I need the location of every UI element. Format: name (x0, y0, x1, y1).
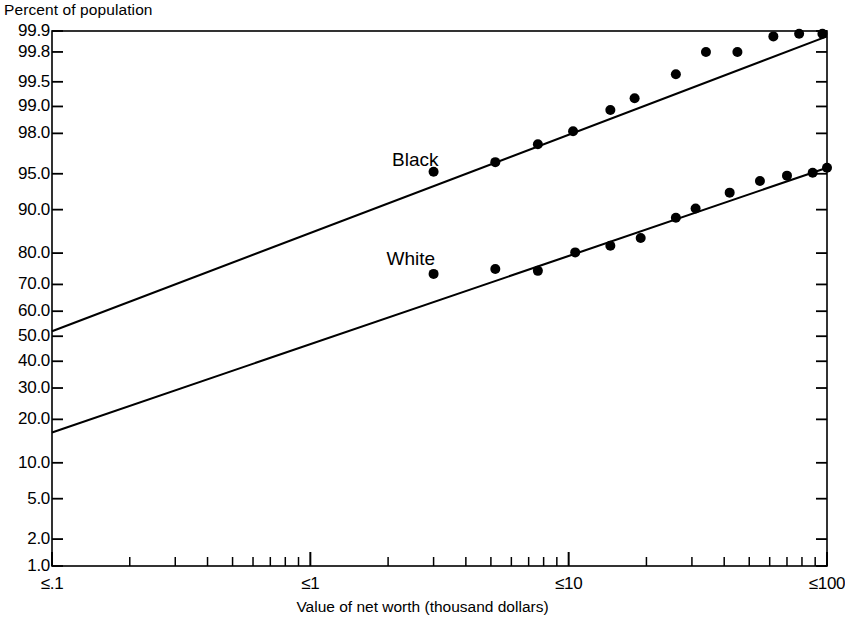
data-point-black (671, 69, 681, 79)
data-point-white (533, 266, 543, 276)
data-point-white (755, 176, 765, 186)
fit-line-white (52, 168, 827, 433)
data-point-white (671, 213, 681, 223)
chart-root: Percent of population 99.999.899.599.098… (0, 0, 845, 624)
fit-line-black (52, 36, 827, 331)
data-point-black (605, 105, 615, 115)
data-point-black (794, 29, 804, 39)
x-tick-0: ≤.1 (41, 574, 64, 594)
series-label-black: Black (392, 149, 438, 171)
data-point-black (490, 157, 500, 167)
data-point-black (533, 139, 543, 149)
plot-canvas (0, 0, 845, 624)
x-axis-title: Value of net worth (thousand dollars) (0, 598, 845, 616)
data-point-black (568, 126, 578, 136)
data-point-black (701, 47, 711, 57)
data-point-black (630, 93, 640, 103)
data-point-white (636, 233, 646, 243)
data-point-white (725, 188, 735, 198)
data-point-white (691, 204, 701, 214)
series-label-white: White (387, 248, 436, 270)
x-tick-1: ≤1 (301, 574, 319, 594)
data-point-white (822, 163, 832, 173)
data-point-white (570, 247, 580, 257)
data-point-white (490, 264, 500, 274)
data-point-white (429, 269, 439, 279)
plot-frame (52, 31, 827, 566)
x-tick-3: ≤100 (809, 574, 845, 594)
data-point-white (605, 241, 615, 251)
data-point-black (732, 47, 742, 57)
data-point-black (768, 31, 778, 41)
data-point-white (782, 171, 792, 181)
x-tick-2: ≤10 (555, 574, 582, 594)
data-point-black (817, 29, 827, 39)
data-point-white (808, 168, 818, 178)
